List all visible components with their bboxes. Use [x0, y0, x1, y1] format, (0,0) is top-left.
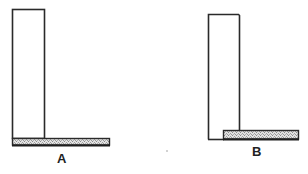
speck-mark [166, 150, 168, 152]
panel-b-label: B [252, 145, 261, 158]
diagram-canvas [0, 0, 308, 174]
panel-a [12, 10, 110, 146]
panel-a-upright [13, 10, 45, 139]
panel-a-label: A [57, 152, 66, 165]
panel-b-base-plate [224, 131, 299, 140]
diagram-figure: A B [0, 0, 308, 174]
panel-b [208, 15, 299, 140]
panel-b-upright [209, 15, 240, 140]
panel-a-base-plate [13, 139, 110, 146]
